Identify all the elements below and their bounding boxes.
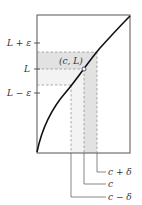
vertical-band-right (84, 69, 97, 153)
vertical-band-left (71, 85, 84, 153)
point-c-L (82, 67, 86, 71)
label-L-minus-eps: L − ε (6, 88, 31, 98)
label-L: L (23, 64, 30, 74)
leader-lines (71, 153, 106, 197)
label-c-minus-delta: c − δ (108, 192, 132, 202)
label-point-c-L: (c, L) (59, 56, 83, 66)
label-c: c (108, 179, 113, 189)
label-L-plus-eps: L + ε (6, 38, 31, 48)
epsilon-delta-diagram: L + ε L L − ε (c, L) c + δ c c − δ (0, 0, 142, 205)
label-c-plus-delta: c + δ (108, 167, 132, 177)
